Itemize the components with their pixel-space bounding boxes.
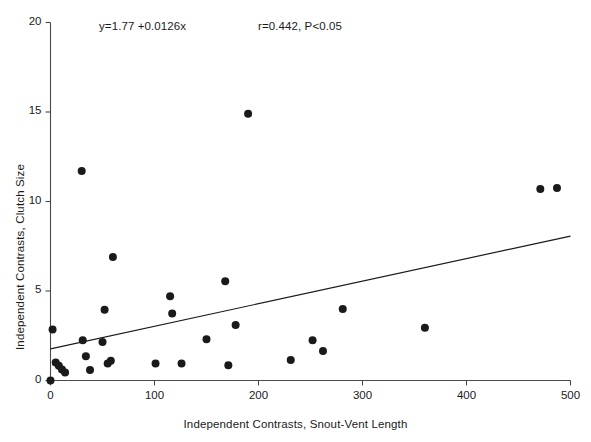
data-point — [78, 167, 86, 175]
data-point — [86, 366, 94, 374]
y-axis-tick-label: 0 — [16, 373, 42, 385]
data-point — [82, 352, 90, 360]
axis-layer — [46, 23, 571, 386]
data-point — [107, 357, 115, 365]
data-point — [99, 338, 107, 346]
data-point — [49, 325, 57, 333]
data-point — [168, 309, 176, 317]
data-point — [224, 361, 232, 369]
y-axis-tick-label: 5 — [16, 283, 42, 295]
x-axis-title: Independent Contrasts, Snout-Vent Length — [0, 418, 591, 430]
data-point — [553, 184, 561, 192]
x-axis-tick-label: 300 — [343, 389, 383, 401]
data-points-layer — [47, 110, 561, 385]
data-point — [221, 277, 229, 285]
data-point — [178, 359, 186, 367]
correlation-statistics-annotation: r=0.442, P<0.05 — [258, 20, 342, 32]
data-point — [47, 377, 55, 385]
data-point — [232, 321, 240, 329]
data-point — [203, 335, 211, 343]
y-axis-tick-label: 20 — [16, 15, 42, 27]
data-point — [109, 253, 117, 261]
data-point — [61, 368, 69, 376]
data-point — [166, 292, 174, 300]
data-point — [101, 306, 109, 314]
regression-line — [51, 236, 571, 349]
data-point — [421, 324, 429, 332]
x-axis-tick-label: 100 — [135, 389, 175, 401]
y-axis-tick-label: 10 — [16, 194, 42, 206]
x-axis-tick-label: 500 — [551, 389, 591, 401]
data-point — [244, 110, 252, 118]
data-point — [319, 347, 327, 355]
x-axis-tick-label: 0 — [31, 389, 71, 401]
x-axis-tick-label: 400 — [447, 389, 487, 401]
regression-line-layer — [51, 236, 571, 349]
regression-equation-annotation: y=1.77 +0.0126x — [99, 20, 186, 32]
data-point — [309, 336, 317, 344]
plot-canvas — [0, 0, 591, 442]
y-axis-tick-label: 15 — [16, 104, 42, 116]
data-point — [79, 336, 87, 344]
scatter-plot-figure: y=1.77 +0.0126x r=0.442, P<0.05 Independ… — [0, 0, 591, 442]
data-point — [287, 356, 295, 364]
data-point — [536, 185, 544, 193]
y-axis-title: Independent Contrasts, Clutch Size — [14, 164, 26, 350]
x-axis-tick-label: 200 — [239, 389, 279, 401]
data-point — [152, 359, 160, 367]
data-point — [339, 305, 347, 313]
